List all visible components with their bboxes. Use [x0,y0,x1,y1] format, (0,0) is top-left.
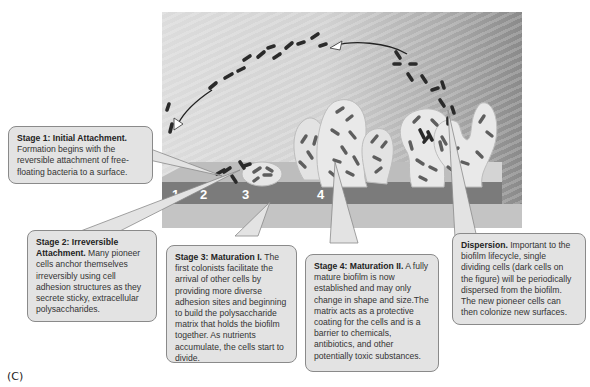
biofilm-art: 1 2 3 4 [162,12,522,228]
stage-number-3: 3 [242,187,249,202]
stage-3-title: Stage 3: Maturation I. [175,252,262,262]
stage-4-title: Stage 4: Maturation II. [314,261,403,271]
stage-1-title: Stage 1: Initial Attachment. [17,133,127,143]
stage-number-2: 2 [200,187,207,202]
callout-dispersion: Dispersion. Important to the biofilm lif… [452,233,586,325]
dispersion-title: Dispersion. [461,240,508,250]
callout-stage-3: Stage 3: Maturation I. The first colonis… [166,245,297,363]
stage-3-body: The first colonists facilitate the arriv… [175,252,286,363]
callout-stage-1: Stage 1: Initial Attachment. Formation b… [8,126,153,184]
stage-1-body: Formation begins with the reversible att… [17,144,129,176]
callout-stage-4: Stage 4: Maturation II. A fully mature b… [305,254,439,372]
panel-label: (C) [7,370,23,383]
stage-4-body: A fully mature biofilm is now establishe… [314,261,429,361]
substrate-base [162,204,522,228]
dispersion-body: Important to the biofilm lifecycle, sing… [461,240,571,317]
callout-stage-2: Stage 2: Irreversible Attachment. Many p… [27,230,157,322]
biofilm-illustration: 1 2 3 4 [162,12,522,228]
stage-number-1: 1 [172,187,179,202]
stage-number-4: 4 [317,187,325,202]
